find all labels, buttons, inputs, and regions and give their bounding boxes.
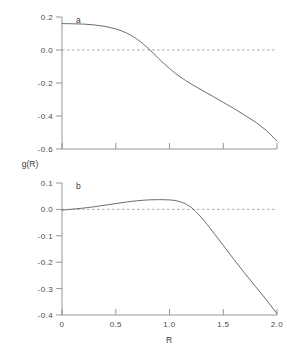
two-panel-plot: 0.2 0.0 -0.2 -0.4 -0.6 a bbox=[0, 0, 287, 352]
panel-a-ytick-1: 0.0 bbox=[41, 46, 53, 55]
panel-b-xtick-3: 1.5 bbox=[217, 320, 229, 329]
panel-b-ytick-1: 0.0 bbox=[41, 205, 53, 214]
panel-b-ytick-0: 0.1 bbox=[41, 179, 53, 188]
panel-b-ytick-3: -0.2 bbox=[38, 258, 54, 267]
panel-b-xtick-4: 2.0 bbox=[271, 320, 283, 329]
panel-a-y-ticks bbox=[56, 17, 62, 149]
panel-b-y-ticks bbox=[56, 183, 62, 315]
panel-a: 0.2 0.0 -0.2 -0.4 -0.6 a bbox=[38, 13, 277, 154]
panel-b-ytick-5: -0.4 bbox=[38, 311, 54, 320]
panel-b-curve bbox=[62, 200, 277, 314]
figure-container: 0.2 0.0 -0.2 -0.4 -0.6 a bbox=[0, 0, 287, 352]
x-axis-label: R bbox=[166, 335, 172, 345]
panel-a-ytick-3: -0.4 bbox=[38, 112, 54, 121]
panel-b-xtick-1: 0.5 bbox=[110, 320, 122, 329]
panel-b-ytick-2: -0.1 bbox=[38, 232, 54, 241]
panel-a-ytick-0: 0.2 bbox=[41, 13, 53, 22]
panel-b-ytick-4: -0.3 bbox=[38, 285, 54, 294]
panel-b: 0.1 0.0 -0.1 -0.2 -0.3 -0.4 0 0.5 1.0 1.… bbox=[38, 179, 284, 329]
panel-a-curve bbox=[62, 24, 277, 141]
panel-b-tag: b bbox=[76, 181, 81, 191]
panel-a-ytick-4: -0.6 bbox=[38, 145, 54, 154]
panel-b-xtick-0: 0 bbox=[60, 320, 65, 329]
panel-b-xtick-2: 1.0 bbox=[163, 320, 175, 329]
panel-b-x-ticks bbox=[62, 309, 277, 315]
y-axis-label: g(R) bbox=[22, 159, 39, 169]
panel-a-x-ticks bbox=[62, 143, 277, 149]
panel-a-ytick-2: -0.2 bbox=[38, 79, 54, 88]
